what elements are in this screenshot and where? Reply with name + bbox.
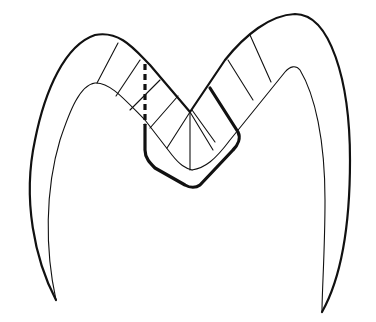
outer-outline-right bbox=[190, 14, 350, 312]
rod-line bbox=[250, 35, 271, 82]
rod-line bbox=[116, 60, 140, 96]
rod-line bbox=[228, 60, 253, 100]
rod-line bbox=[190, 112, 213, 150]
rod-line bbox=[192, 110, 215, 142]
tooth-diagram bbox=[0, 0, 376, 322]
rod-line bbox=[150, 96, 178, 128]
inner-outline-right bbox=[192, 67, 325, 312]
rod-line bbox=[97, 43, 118, 83]
inner-outline-left bbox=[48, 83, 192, 300]
rod-line bbox=[167, 112, 190, 148]
